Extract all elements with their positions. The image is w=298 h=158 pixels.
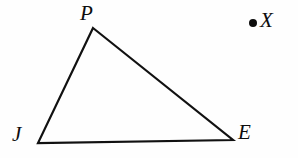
point-label-x: X [260, 10, 273, 31]
vertex-label-j: J [12, 124, 21, 145]
triangle-jpe [38, 28, 233, 143]
point-x-group: X [249, 10, 273, 31]
vertex-label-e: E [238, 122, 251, 143]
point-dot-icon [249, 19, 257, 27]
vertex-label-p: P [80, 3, 93, 24]
geometry-figure: P J E X [0, 0, 298, 158]
